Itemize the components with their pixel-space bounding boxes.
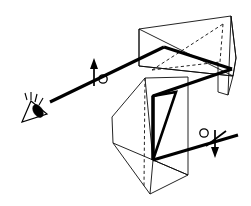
upper-prism-right-lower-edge: [233, 58, 236, 76]
lower-prism: [112, 77, 188, 194]
eye-icon: [22, 92, 47, 122]
upper-prism-right-wedge-edge: [231, 16, 236, 58]
polarization-marker-output-circle: [200, 129, 208, 137]
eye-lash-1: [25, 93, 27, 100]
upper-prism-hidden-vertical-edge: [220, 24, 223, 62]
polarization-marker-output-arrowhead-down: [211, 147, 219, 158]
lower-prism-top-edge: [145, 77, 188, 78]
lower-prism-bold-front-face: [153, 92, 176, 160]
upper-prism-right-tail-low: [218, 92, 228, 95]
eye-lash-3: [35, 94, 37, 102]
lower-prism-hidden-back-edge: [144, 78, 145, 186]
polarization-marker-input-arrowhead-up: [90, 58, 98, 69]
ray-reflected-down-left: [153, 69, 232, 96]
ray-outgoing: [153, 135, 238, 160]
diagram-canvas: Polarized light path through two prisms …: [0, 0, 251, 206]
lower-prism-bottom-diagonal: [153, 160, 188, 175]
lower-prism-left-panel: [112, 78, 153, 160]
optical-diagram-figure: Polarized light path through two prisms …: [0, 0, 251, 206]
ray-upper-prism-top: [164, 47, 232, 69]
eye-lash-4: [39, 98, 43, 105]
lower-prism-bottom-inner-edge: [150, 160, 153, 194]
